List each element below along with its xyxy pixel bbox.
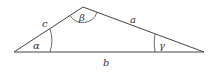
angle-label-gamma: γ — [159, 40, 165, 51]
side-label-c: c — [42, 18, 48, 29]
angle-arc-gamma — [154, 34, 155, 52]
triangle-diagram: c a b α β γ — [0, 0, 214, 72]
angle-arc-alpha — [50, 29, 52, 52]
side-label-b: b — [103, 57, 109, 68]
angle-label-beta: β — [78, 12, 85, 23]
side-label-a: a — [130, 14, 136, 25]
angle-label-alpha: α — [33, 40, 40, 51]
triangle-shape — [14, 7, 204, 52]
